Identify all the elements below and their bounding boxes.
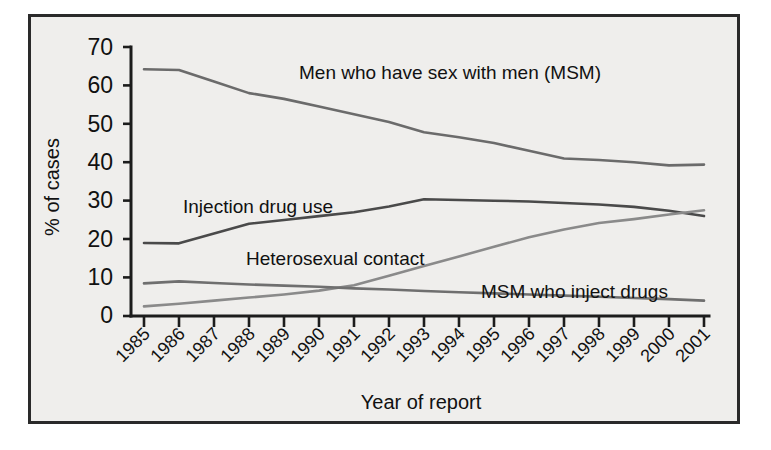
x-tick-1999: 1999	[601, 324, 643, 366]
x-tick-1990: 1990	[286, 324, 328, 366]
series-label-idu: Injection drug use	[183, 196, 333, 217]
x-tick-labels: 1985 1986 1987 1988 1989 1990 1991 1992 …	[111, 324, 713, 366]
series-line-msm	[144, 69, 704, 165]
x-tick-1992: 1992	[356, 324, 398, 366]
series-label-het: Heterosexual contact	[246, 248, 425, 269]
x-tick-1991: 1991	[321, 324, 363, 366]
x-tick-1996: 1996	[496, 324, 538, 366]
x-tick-1986: 1986	[146, 324, 188, 366]
series-group	[144, 69, 704, 306]
x-tick-1993: 1993	[391, 324, 433, 366]
x-tick-2000: 2000	[636, 324, 678, 366]
line-chart: % of cases 70 60 50 40 30 20 10 0	[31, 17, 737, 421]
y-tick-60: 60	[87, 72, 113, 98]
chart-canvas: % of cases 70 60 50 40 30 20 10 0	[31, 17, 737, 421]
series-label-msm-idu: MSM who inject drugs	[481, 281, 668, 302]
x-tick-1995: 1995	[461, 324, 503, 366]
x-axis-title: Year of report	[361, 391, 482, 413]
x-tick-1987: 1987	[181, 324, 223, 366]
y-tick-70: 70	[87, 34, 113, 60]
y-axis-title: % of cases	[41, 138, 63, 236]
y-tick-30: 30	[87, 187, 113, 213]
y-tick-50: 50	[87, 111, 113, 137]
x-tick-1998: 1998	[566, 324, 608, 366]
x-tick-1989: 1989	[251, 324, 293, 366]
x-tick-2001: 2001	[671, 324, 713, 366]
y-tick-10: 10	[87, 264, 113, 290]
x-tick-marks	[144, 316, 704, 327]
y-tick-40: 40	[87, 149, 113, 175]
x-tick-1997: 1997	[531, 324, 573, 366]
figure-frame: % of cases 70 60 50 40 30 20 10 0	[28, 14, 740, 424]
y-tick-20: 20	[87, 226, 113, 252]
x-tick-1994: 1994	[426, 324, 468, 366]
y-tick-0: 0	[100, 302, 113, 328]
x-tick-1985: 1985	[111, 324, 153, 366]
series-label-msm: Men who have sex with men (MSM)	[299, 62, 601, 83]
x-tick-1988: 1988	[216, 324, 258, 366]
